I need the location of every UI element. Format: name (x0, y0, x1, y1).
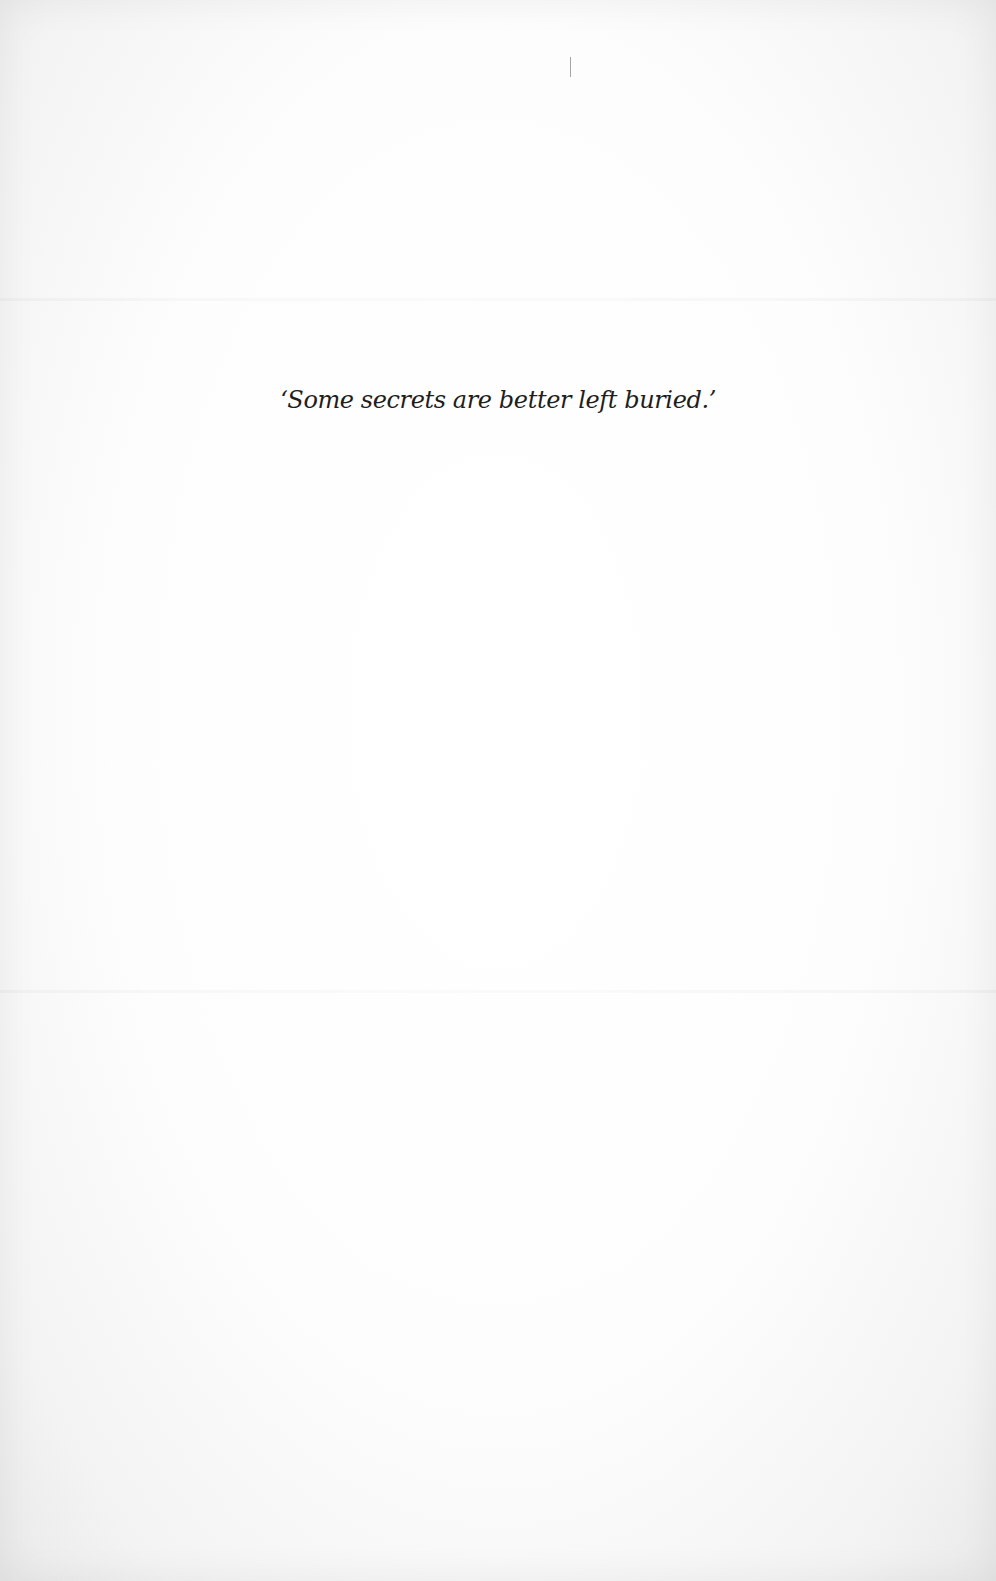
scan-mark (570, 57, 571, 77)
epigraph-quote: ‘Some secrets are better left buried.’ (0, 386, 996, 414)
book-page: ‘Some secrets are better left buried.’ (0, 0, 996, 1581)
scan-streak (0, 298, 996, 301)
scan-streak (0, 990, 996, 993)
